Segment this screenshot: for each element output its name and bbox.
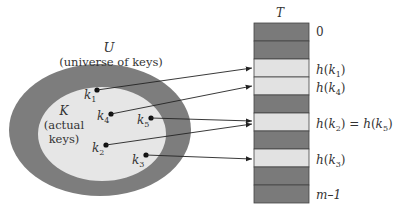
actual-symbol: K bbox=[59, 104, 70, 118]
row-label-h-k2-k5: h(k2) = h(k5) bbox=[316, 117, 393, 133]
row-label-h-k3: h(k3) bbox=[316, 153, 345, 169]
hash-table bbox=[254, 23, 309, 203]
actual-caption-1: (actual bbox=[44, 118, 85, 132]
table-title: T bbox=[276, 6, 285, 20]
row-label-h-k1: h(k1) bbox=[316, 63, 345, 79]
hash-diagram: U (universe of keys) K (actual keys) T 0… bbox=[0, 0, 394, 217]
row-label-h-k4: h(k4) bbox=[316, 81, 345, 97]
universe-symbol: U bbox=[104, 40, 116, 55]
actual-caption-2: keys) bbox=[49, 132, 80, 146]
row-label-0: 0 bbox=[316, 25, 324, 39]
row-label-m-1: m–1 bbox=[316, 188, 341, 202]
universe-caption: (universe of keys) bbox=[59, 55, 163, 69]
